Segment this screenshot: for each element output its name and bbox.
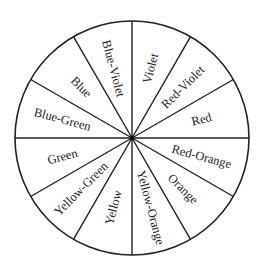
segment-label-blue: Blue	[68, 74, 95, 101]
segment-label-green: Green	[46, 146, 80, 168]
segment-label-red-orange: Red-Orange	[170, 142, 233, 171]
segment-label-yellow-orange: Yellow-Orange	[134, 169, 167, 247]
segment-label-red-violet: Red-Violet	[159, 62, 208, 111]
segment-label-violet: Violet	[140, 51, 162, 85]
wheel-labels: Violet Red-Violet Red Red-Orange Orange …	[32, 38, 233, 246]
segment-label-blue-violet: Blue-Violet	[99, 38, 128, 98]
segment-label-blue-green: Blue-Green	[32, 105, 93, 134]
center-hub	[130, 136, 134, 140]
segment-label-orange: Orange	[165, 171, 201, 207]
segment-label-red: Red	[190, 110, 214, 129]
color-wheel: Violet Red-Violet Red Red-Orange Orange …	[0, 0, 261, 275]
segment-label-yellow: Yellow	[102, 189, 125, 227]
